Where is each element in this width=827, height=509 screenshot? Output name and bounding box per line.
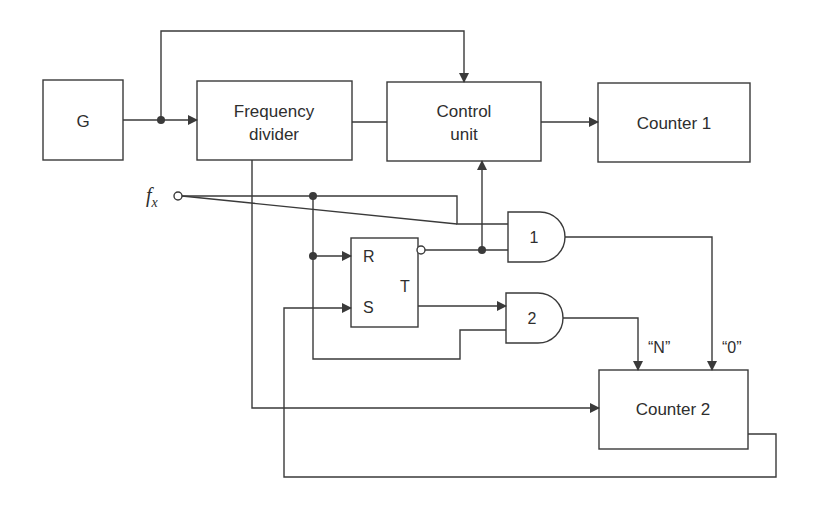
- control-unit-block: Control unit: [387, 82, 541, 161]
- counter2-block: Counter 2: [599, 370, 748, 449]
- rs-trigger-r-label: R: [363, 248, 375, 265]
- n-signal-label: “N”: [648, 339, 670, 356]
- frequency-divider-label-line2: divider: [249, 125, 299, 144]
- wire-gate2-to-counter2: [563, 318, 638, 370]
- and-gate-2-label: 2: [528, 310, 537, 327]
- and-gate-1-label: 1: [530, 229, 539, 246]
- frequency-divider-label-line1: Frequency: [234, 102, 315, 121]
- junction-dot: [157, 116, 165, 124]
- generator-block: G: [43, 80, 123, 160]
- inverted-output-bubble: [417, 246, 425, 254]
- rs-trigger-t-label: T: [400, 278, 410, 295]
- junction-dot: [309, 192, 317, 200]
- control-unit-label-line2: unit: [450, 125, 478, 144]
- counter1-label: Counter 1: [637, 114, 712, 133]
- block-diagram: G Frequency divider Control unit Counter…: [0, 0, 827, 509]
- wire-fx-horizontal: [182, 196, 508, 224]
- counter2-label: Counter 2: [636, 400, 711, 419]
- rs-trigger-s-label: S: [363, 299, 374, 316]
- fx-input-label: fx: [146, 184, 159, 210]
- wire-divider-to-counter2: [252, 160, 599, 408]
- wire-fx-slanted: [182, 196, 457, 224]
- fx-input-terminal: [174, 192, 182, 200]
- generator-label: G: [76, 112, 89, 131]
- and-gate-1: 1: [508, 212, 565, 262]
- and-gate-2: 2: [506, 293, 563, 343]
- rs-trigger-block: R S T: [351, 238, 418, 327]
- counter1-block: Counter 1: [598, 83, 750, 162]
- frequency-divider-block: Frequency divider: [197, 81, 352, 160]
- zero-signal-label: “0”: [722, 339, 742, 356]
- junction-dot: [309, 252, 317, 260]
- junction-dot: [478, 246, 486, 254]
- control-unit-label-line1: Control: [437, 102, 492, 121]
